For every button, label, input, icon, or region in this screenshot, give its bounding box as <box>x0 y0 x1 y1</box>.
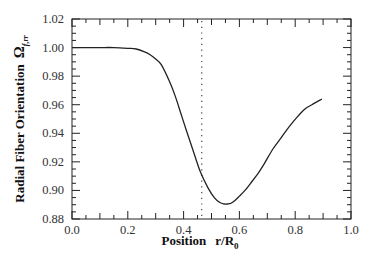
y-tick-label: 1.00 <box>42 41 64 55</box>
x-tick-label: 0.0 <box>64 223 80 237</box>
x-tick-labels: 0.00.20.40.60.81.0 <box>64 223 359 237</box>
plot-frame <box>72 19 351 219</box>
data-curve <box>72 48 322 205</box>
y-tick-label: 1.02 <box>42 12 64 26</box>
y-tick-label: 0.96 <box>42 98 64 112</box>
y-tick-label: 0.98 <box>42 69 64 83</box>
y-tick-label: 0.88 <box>42 212 64 226</box>
y-axis-label: Radial Fiber OrientationΩf,rr <box>11 34 30 202</box>
x-tick-label: 0.8 <box>287 223 303 237</box>
y-tick-label: 0.94 <box>42 126 65 140</box>
x-tick-label: 1.0 <box>343 223 359 237</box>
y-tick-label: 0.90 <box>42 183 64 197</box>
chart: 0.00.20.40.60.81.0 0.880.900.920.940.960… <box>0 0 373 263</box>
x-tick-label: 0.2 <box>120 223 136 237</box>
axis-ticks <box>72 19 351 219</box>
y-tick-labels: 0.880.900.920.940.960.981.001.02 <box>42 12 65 226</box>
y-tick-label: 0.92 <box>42 155 64 169</box>
x-axis-label: Positionr/R0 <box>161 233 239 251</box>
